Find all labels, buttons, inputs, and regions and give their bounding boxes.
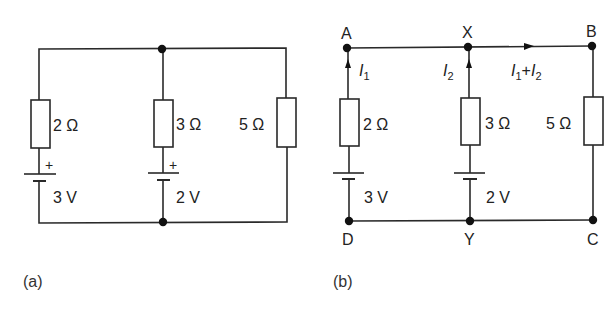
arrow-right-sum-icon (524, 43, 534, 50)
label-node-c: C (587, 231, 599, 248)
label-3v-b: 3 V (364, 189, 388, 206)
resistor-3ohm-b (461, 98, 480, 145)
caption-b: (b) (333, 273, 353, 290)
label-5ohm-b: 5 Ω (546, 115, 571, 132)
label-node-a: A (341, 25, 352, 42)
label-2ohm-a: 2 Ω (53, 117, 78, 134)
label-2ohm-b: 2 Ω (363, 116, 388, 133)
label-current-sum: I1+I2 (511, 62, 542, 82)
label-node-y: Y (464, 231, 475, 248)
battery-2v-b (454, 173, 485, 179)
battery-3v-a (24, 174, 56, 181)
label-3ohm-b: 3 Ω (485, 115, 510, 132)
node-x (464, 43, 472, 51)
circuit-a: 2 Ω 3 Ω 5 Ω + + 3 V 2 V (a) (23, 45, 296, 290)
resistor-2ohm-b (340, 99, 359, 146)
resistor-2ohm-a (31, 100, 50, 148)
plus-sign-2v-a: + (169, 157, 177, 173)
label-3v-a: 3 V (53, 189, 77, 206)
arrow-up-i1-icon (345, 59, 351, 68)
circuit-b: A X B D Y C I1 I2 I1+I2 2 Ω 3 Ω 5 Ω 3 V … (333, 23, 603, 290)
resistor-3ohm-a (154, 100, 173, 147)
node-b (588, 42, 596, 50)
battery-2v-a (148, 173, 179, 180)
label-current-i1: I1 (359, 62, 370, 82)
label-node-d: D (342, 231, 354, 248)
circuit-figure: 2 Ω 3 Ω 5 Ω + + 3 V 2 V (a) (0, 0, 615, 327)
label-5ohm-a: 5 Ω (239, 116, 264, 133)
junction-top-a (158, 45, 166, 53)
resistor-5ohm-b (584, 97, 603, 145)
resistor-5ohm-a (277, 98, 296, 147)
arrow-up-i2-icon (466, 59, 472, 68)
label-node-b: B (586, 23, 597, 40)
caption-a: (a) (23, 273, 43, 290)
node-a (343, 44, 351, 52)
node-y (466, 217, 474, 225)
battery-3v-b (333, 173, 364, 179)
label-2v-b: 2 V (486, 189, 510, 206)
node-d (345, 217, 353, 225)
plus-sign-3v-a: + (45, 157, 53, 173)
label-current-i2: I2 (443, 62, 454, 82)
label-3ohm-a: 3 Ω (176, 116, 201, 133)
junction-bottom-a (159, 218, 167, 226)
label-node-x: X (462, 24, 473, 41)
node-c (589, 216, 597, 224)
label-2v-a: 2 V (176, 189, 200, 206)
